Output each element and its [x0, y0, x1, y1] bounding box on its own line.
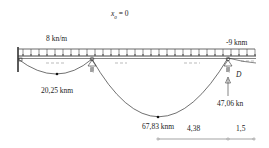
moment-curve-span1	[18, 59, 92, 74]
support-d	[224, 57, 232, 72]
distributed-load-label: 8 kn/m	[46, 34, 67, 43]
moment-curve-span2	[92, 58, 228, 117]
x0-label: x0 = 0	[111, 9, 129, 20]
tension-fiber-marks	[46, 61, 254, 63]
reaction-arrow	[226, 77, 231, 96]
max-moment-point-span2	[157, 116, 160, 119]
dimension-label-2: 1,5	[236, 124, 245, 133]
support-d-label: D	[236, 70, 241, 79]
dimension-label-1: 4,38	[187, 124, 200, 133]
reaction-label: 47,06 kn	[217, 99, 243, 108]
span1-moment-label: 20,25 knm	[41, 86, 73, 95]
end-moment-label: -9 knm	[226, 38, 247, 47]
load-arrows	[23, 49, 255, 55]
beam-diagram	[0, 0, 269, 148]
span2-moment-label: 67,83 knm	[142, 122, 174, 131]
dimension-line	[157, 138, 255, 140]
max-moment-point-span1	[56, 73, 59, 76]
